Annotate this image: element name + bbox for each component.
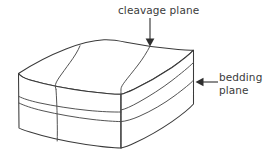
bedding-plane-label: bedding plane [219,71,262,97]
cleavage-plane-label-text: cleavage plane [118,4,199,16]
rock-block-figure: cleavage plane bedding plane [0,0,270,168]
cleavage-plane-label: cleavage plane [118,4,199,17]
bedding-plane-label-line2: plane [219,84,262,97]
bedding-arrowhead-icon [196,78,204,86]
bedding-plane-label-line1: bedding [219,71,262,84]
cleavage-arrowhead-icon [146,39,155,47]
